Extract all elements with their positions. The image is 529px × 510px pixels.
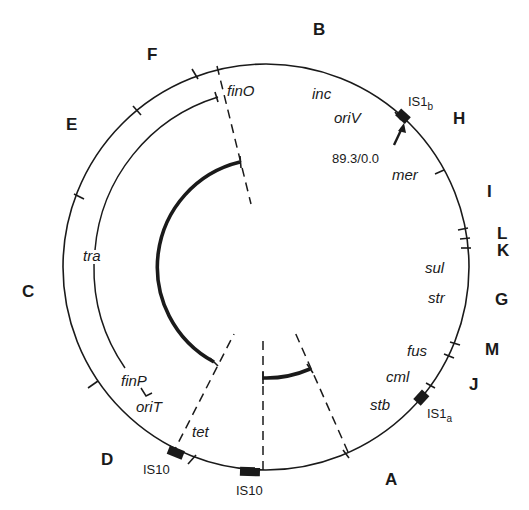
is10-bottom-block	[240, 467, 260, 477]
segment-label-M: M	[485, 340, 499, 359]
segment-label-J: J	[469, 375, 478, 394]
gene-label-oriV: oriV	[334, 109, 363, 126]
deletion-arc-left	[157, 162, 240, 362]
gene-label-cml: cml	[386, 368, 410, 385]
segment-label-F: F	[147, 45, 157, 64]
segment-label-H: H	[453, 109, 465, 128]
is-label-IS10-bottom: IS10	[236, 483, 263, 498]
gene-label-stb: stb	[370, 396, 390, 413]
segment-label-A: A	[385, 470, 397, 489]
plasmid-map: B F E C D A H I L K G M J finO inc oriV …	[0, 0, 529, 510]
segment-label-G: G	[495, 290, 508, 309]
is-label-IS10-left: IS10	[143, 462, 170, 477]
gene-label-tra: tra	[83, 247, 101, 264]
gene-label-fus: fus	[407, 342, 428, 359]
tra-arc-lower	[94, 264, 125, 368]
dashed-line-right	[294, 330, 348, 452]
deletion-arc-bottom	[263, 369, 310, 378]
is-label-IS1a: IS1a	[427, 406, 453, 424]
oriT-hook	[141, 388, 152, 396]
gene-label-tet: tet	[192, 423, 210, 440]
origin-coordinate-label: 89.3/0.0	[332, 151, 379, 166]
tra-arc-upper	[95, 97, 218, 250]
gene-label-mer: mer	[392, 166, 419, 183]
segment-boundary-ticks	[74, 69, 471, 464]
gene-label-inc: inc	[312, 85, 332, 102]
segment-label-D: D	[101, 450, 113, 469]
gene-label-finO: finO	[227, 82, 255, 99]
segment-label-I: I	[487, 182, 492, 201]
gene-label-str: str	[428, 289, 446, 306]
gene-label-sul: sul	[425, 259, 445, 276]
segment-label-B: B	[313, 20, 325, 39]
outer-circle	[63, 64, 469, 470]
segment-label-K: K	[497, 241, 510, 260]
segment-label-E: E	[66, 115, 77, 134]
gene-label-oriT: oriT	[136, 398, 164, 415]
segment-label-C: C	[22, 282, 34, 301]
gene-label-finP: finP	[121, 372, 147, 389]
is-label-IS1b: IS1b	[408, 94, 434, 112]
